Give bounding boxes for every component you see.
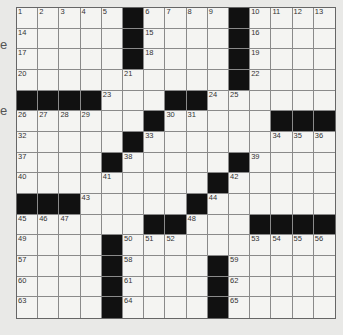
grid-cell[interactable] — [271, 256, 292, 277]
grid-cell[interactable] — [81, 173, 102, 194]
grid-cell[interactable] — [123, 194, 144, 215]
grid-cell[interactable] — [165, 297, 186, 318]
grid-cell[interactable]: 14 — [17, 29, 38, 50]
grid-cell[interactable]: 15 — [144, 29, 165, 50]
grid-cell[interactable]: 18 — [144, 49, 165, 70]
grid-cell[interactable]: 1 — [17, 8, 38, 29]
grid-cell[interactable] — [187, 173, 208, 194]
grid-cell[interactable] — [81, 49, 102, 70]
grid-cell[interactable] — [187, 29, 208, 50]
grid-cell[interactable]: 42 — [229, 173, 250, 194]
grid-cell[interactable]: 55 — [293, 235, 314, 256]
grid-cell[interactable] — [271, 49, 292, 70]
grid-cell[interactable] — [81, 277, 102, 298]
grid-cell[interactable]: 43 — [81, 194, 102, 215]
grid-cell[interactable] — [314, 29, 335, 50]
grid-cell[interactable] — [144, 173, 165, 194]
grid-cell[interactable] — [123, 173, 144, 194]
grid-cell[interactable]: 24 — [208, 91, 229, 112]
grid-cell[interactable] — [81, 29, 102, 50]
grid-cell[interactable] — [229, 215, 250, 236]
grid-cell[interactable] — [38, 277, 59, 298]
grid-cell[interactable] — [293, 297, 314, 318]
grid-cell[interactable] — [208, 70, 229, 91]
grid-cell[interactable] — [314, 256, 335, 277]
grid-cell[interactable]: 38 — [123, 153, 144, 174]
grid-cell[interactable] — [314, 194, 335, 215]
grid-cell[interactable]: 60 — [17, 277, 38, 298]
grid-cell[interactable] — [144, 194, 165, 215]
grid-cell[interactable]: 20 — [17, 70, 38, 91]
grid-cell[interactable] — [165, 132, 186, 153]
grid-cell[interactable] — [314, 153, 335, 174]
grid-cell[interactable]: 52 — [165, 235, 186, 256]
grid-cell[interactable]: 2 — [38, 8, 59, 29]
grid-cell[interactable]: 5 — [102, 8, 123, 29]
grid-cell[interactable]: 9 — [208, 8, 229, 29]
grid-cell[interactable]: 25 — [229, 91, 250, 112]
grid-cell[interactable] — [59, 132, 80, 153]
grid-cell[interactable] — [187, 132, 208, 153]
grid-cell[interactable] — [102, 49, 123, 70]
grid-cell[interactable] — [59, 297, 80, 318]
grid-cell[interactable] — [81, 297, 102, 318]
grid-cell[interactable] — [250, 111, 271, 132]
grid-cell[interactable] — [293, 153, 314, 174]
grid-cell[interactable]: 28 — [59, 111, 80, 132]
grid-cell[interactable] — [38, 297, 59, 318]
grid-cell[interactable] — [59, 173, 80, 194]
grid-cell[interactable]: 11 — [271, 8, 292, 29]
grid-cell[interactable] — [102, 194, 123, 215]
grid-cell[interactable]: 61 — [123, 277, 144, 298]
grid-cell[interactable]: 27 — [38, 111, 59, 132]
grid-cell[interactable] — [102, 29, 123, 50]
grid-cell[interactable] — [229, 194, 250, 215]
grid-cell[interactable] — [250, 297, 271, 318]
grid-cell[interactable] — [81, 235, 102, 256]
grid-cell[interactable] — [208, 215, 229, 236]
grid-cell[interactable] — [81, 132, 102, 153]
grid-cell[interactable] — [271, 70, 292, 91]
grid-cell[interactable]: 19 — [250, 49, 271, 70]
grid-cell[interactable] — [165, 153, 186, 174]
grid-cell[interactable] — [293, 277, 314, 298]
grid-cell[interactable] — [187, 70, 208, 91]
grid-cell[interactable] — [187, 235, 208, 256]
grid-cell[interactable]: 4 — [81, 8, 102, 29]
grid-cell[interactable] — [293, 194, 314, 215]
grid-cell[interactable] — [38, 173, 59, 194]
grid-cell[interactable] — [102, 111, 123, 132]
grid-cell[interactable] — [314, 91, 335, 112]
grid-cell[interactable] — [271, 194, 292, 215]
grid-cell[interactable]: 36 — [314, 132, 335, 153]
grid-cell[interactable]: 35 — [293, 132, 314, 153]
grid-cell[interactable] — [123, 111, 144, 132]
grid-cell[interactable]: 54 — [271, 235, 292, 256]
grid-cell[interactable] — [81, 153, 102, 174]
grid-cell[interactable] — [81, 256, 102, 277]
grid-cell[interactable] — [187, 153, 208, 174]
grid-cell[interactable] — [165, 173, 186, 194]
grid-cell[interactable] — [38, 29, 59, 50]
grid-cell[interactable] — [102, 215, 123, 236]
grid-cell[interactable]: 65 — [229, 297, 250, 318]
grid-cell[interactable]: 44 — [208, 194, 229, 215]
grid-cell[interactable] — [271, 153, 292, 174]
grid-cell[interactable] — [293, 91, 314, 112]
grid-cell[interactable] — [144, 153, 165, 174]
grid-cell[interactable] — [102, 70, 123, 91]
grid-cell[interactable] — [187, 277, 208, 298]
grid-cell[interactable] — [123, 215, 144, 236]
grid-cell[interactable] — [165, 70, 186, 91]
grid-cell[interactable] — [208, 235, 229, 256]
grid-cell[interactable]: 41 — [102, 173, 123, 194]
grid-cell[interactable]: 62 — [229, 277, 250, 298]
grid-cell[interactable] — [165, 256, 186, 277]
grid-cell[interactable] — [165, 49, 186, 70]
grid-cell[interactable] — [38, 256, 59, 277]
grid-cell[interactable] — [250, 91, 271, 112]
grid-cell[interactable] — [229, 111, 250, 132]
grid-cell[interactable] — [38, 153, 59, 174]
grid-cell[interactable] — [293, 173, 314, 194]
grid-cell[interactable] — [208, 132, 229, 153]
